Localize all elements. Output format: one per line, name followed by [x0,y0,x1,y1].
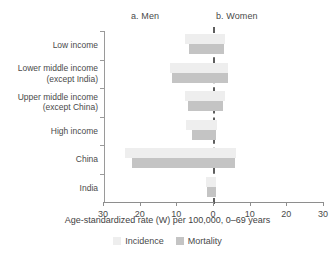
x-axis-tick [213,202,214,206]
figure: a. Men b. Women 3020100102030 Low income… [0,0,335,258]
legend-item-incidence: Incidence [113,236,164,246]
bar-mortality [192,130,216,140]
bar-row [104,31,323,60]
category-label-line: China [76,154,98,165]
bar-row [104,88,323,117]
bar-row [104,174,323,203]
y-axis-tick [100,60,104,61]
plot-area: 3020100102030 [104,31,323,202]
category-label: India [80,183,98,194]
bar-mortality [189,44,224,54]
x-axis-tick [140,202,141,206]
category-label: High income [51,126,98,137]
legend: Incidence Mortality [0,236,335,246]
category-label: China [76,154,98,165]
category-label-line: (except India) [18,74,98,85]
x-axis-tick [250,202,251,206]
category-label-line: India [80,183,98,194]
bar-row [104,60,323,89]
x-axis-tick [286,202,287,206]
legend-label-mortality: Mortality [188,236,222,246]
x-axis-tick [323,202,324,206]
x-axis-tick [103,202,104,206]
y-axis-tick [100,145,104,146]
panel-title-men: a. Men [131,11,159,21]
legend-swatch-mortality-icon [176,237,184,245]
x-axis-title: Age-standardized rate (W) per 100,000, 0… [0,215,335,225]
category-label-line: Low income [53,40,98,51]
category-label: Lower middle income(except India) [18,63,98,84]
panel-title-women: b. Women [216,11,258,21]
category-label: Low income [53,40,98,51]
bar-row [104,145,323,174]
bar-incidence [206,177,216,187]
bar-mortality [207,187,216,197]
category-label-line: High income [51,126,98,137]
category-label-line: Upper middle income [18,92,98,103]
bar-incidence [186,120,217,130]
category-label-line: (except China) [18,102,98,113]
legend-swatch-incidence-icon [113,237,121,245]
bar-mortality [132,158,235,168]
bar-mortality [188,101,223,111]
bar-incidence [125,148,236,158]
y-axis-tick [100,174,104,175]
bar-row [104,117,323,146]
category-label: Upper middle income(except China) [18,92,98,113]
y-axis-tick [100,117,104,118]
y-axis-tick [100,88,104,89]
category-label-line: Lower middle income [18,63,98,74]
legend-label-incidence: Incidence [125,236,164,246]
x-axis-tick [176,202,177,206]
bar-incidence [185,34,224,44]
legend-item-mortality: Mortality [176,236,222,246]
bar-incidence [185,91,225,101]
bar-incidence [170,63,229,73]
bar-mortality [172,73,228,83]
y-axis-tick [100,31,104,32]
